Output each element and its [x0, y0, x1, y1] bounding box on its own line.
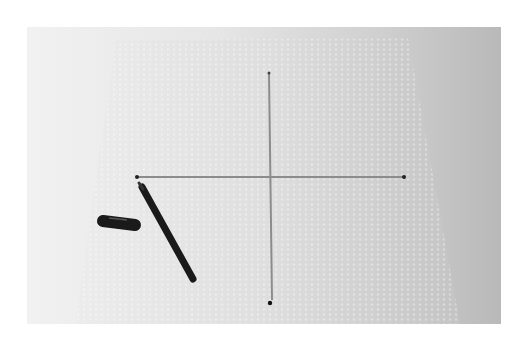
dot-left — [135, 175, 139, 179]
photo-scene — [27, 27, 501, 324]
dot-bottom — [268, 301, 272, 305]
marker-cap — [103, 218, 135, 225]
photo — [27, 27, 501, 324]
dot-right — [402, 175, 406, 179]
dot-top — [268, 72, 271, 75]
